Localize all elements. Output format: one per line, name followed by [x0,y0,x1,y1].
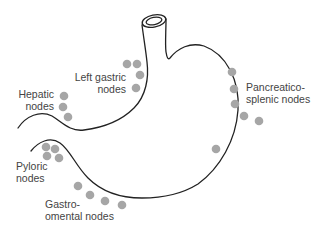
node-dot [55,154,64,163]
node-dot [212,145,221,154]
label-left-gastric-nodes: Left gastric nodes [70,71,126,95]
greater-curvature-node [212,145,221,154]
label-line: nodes [16,172,48,184]
node-dot [51,145,60,154]
label-line: Pancreatico- [246,81,310,93]
esophagus-opening [141,13,167,30]
node-dot [60,92,69,101]
node-dot [240,112,249,121]
node-dot [42,143,51,152]
label-line: nodes [14,100,54,112]
label-pyloric-nodes: Pyloric nodes [16,160,48,184]
label-line: Left gastric [70,71,126,83]
label-line: omental nodes [45,210,114,222]
label-line: nodes [70,83,126,95]
node-dot [133,60,142,69]
node-dot [123,60,132,69]
node-dot [255,117,264,126]
label-line: Gastro- [45,198,114,210]
hepatic-nodes [59,92,73,122]
label-line: Pyloric [16,160,48,172]
label-line: splenic nodes [246,93,310,105]
label-gastro-omental-nodes: Gastro- omental nodes [45,198,114,222]
node-dot [231,100,240,109]
node-dot [118,201,127,210]
node-dot [132,84,141,93]
node-dot [230,85,239,94]
node-dot [136,71,145,80]
node-dot [64,113,73,122]
node-dot [43,152,52,161]
node-dot [74,182,83,191]
label-pancreatico-splenic-nodes: Pancreatico- splenic nodes [246,81,310,105]
label-line: Hepatic [14,88,54,100]
stomach-lymph-node-diagram [0,0,318,231]
node-dot [228,68,237,77]
label-hepatic-nodes: Hepatic nodes [14,88,54,112]
node-dot [59,103,68,112]
